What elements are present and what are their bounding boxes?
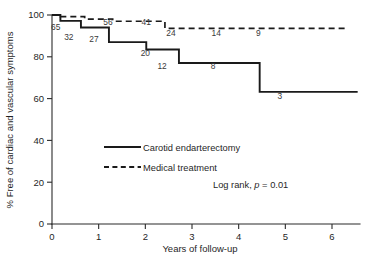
risk-label-medical-treatment: 56 [103, 17, 113, 27]
y-tick-label: 0 [39, 218, 44, 229]
x-tick-label: 1 [96, 231, 101, 242]
risk-label-carotid-endarterectomy: 27 [89, 34, 99, 44]
x-tick-label: 0 [49, 231, 54, 242]
series-curves [52, 15, 358, 92]
risk-number-labels: 653227201283564124149 [51, 17, 282, 101]
y-axis-ticks: 020406080100 [28, 9, 52, 229]
risk-label-carotid-endarterectomy: 12 [157, 61, 167, 71]
y-tick-label: 60 [33, 93, 44, 104]
x-axis-title: Years of follow-up [162, 243, 237, 254]
x-axis-ticks: 0123456 [49, 224, 334, 242]
legend: Carotid endarterectomy Medical treatment [104, 143, 240, 173]
y-tick-label: 40 [33, 135, 44, 146]
log-rank-prefix: Log rank, [213, 180, 254, 190]
curve-carotid-endarterectomy [52, 15, 358, 92]
risk-label-medical-treatment: 14 [212, 28, 222, 38]
x-tick-label: 4 [236, 231, 241, 242]
y-axis-title: % Free of cardiac and vascular symptoms [4, 31, 15, 208]
log-rank-annotation: Log rank, p = 0.01 [213, 180, 288, 190]
risk-label-carotid-endarterectomy: 32 [64, 32, 74, 42]
y-tick-label: 80 [33, 51, 44, 62]
risk-label-medical-treatment: 9 [256, 28, 261, 38]
risk-label-medical-treatment: 24 [166, 28, 176, 38]
kaplan-meier-chart: 020406080100 % Free of cardiac and vascu… [0, 0, 369, 262]
y-tick-label: 100 [28, 9, 44, 20]
risk-label-carotid-endarterectomy: 3 [277, 91, 282, 101]
x-tick-label: 2 [143, 231, 148, 242]
y-axis-group: 020406080100 % Free of cardiac and vascu… [4, 9, 52, 229]
log-rank-value: = 0.01 [260, 180, 289, 190]
x-tick-label: 6 [329, 231, 334, 242]
legend-label-carotid-endarterectomy: Carotid endarterectomy [143, 143, 240, 153]
y-tick-label: 20 [33, 177, 44, 188]
x-tick-label: 5 [283, 231, 288, 242]
x-axis-group: 0123456 Years of follow-up [49, 224, 360, 254]
risk-label-medical-treatment: 41 [142, 17, 152, 27]
chart-svg: 020406080100 % Free of cardiac and vascu… [0, 0, 369, 262]
legend-label-medical-treatment: Medical treatment [143, 163, 217, 173]
x-tick-label: 3 [189, 231, 194, 242]
risk-label-carotid-endarterectomy: 20 [141, 48, 151, 58]
risk-label-carotid-endarterectomy: 8 [211, 61, 216, 71]
curve-medical-treatment [52, 15, 348, 28]
risk-label-carotid-endarterectomy: 65 [51, 22, 61, 32]
